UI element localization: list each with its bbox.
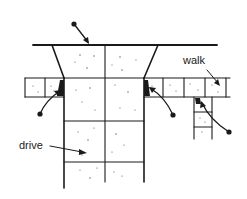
branch-joint-fill	[195, 98, 201, 104]
callout-branch-joint	[200, 101, 232, 135]
drive-label-leader	[50, 146, 87, 155]
right-joint-fill	[144, 80, 150, 96]
drive-label: drive	[19, 139, 43, 151]
callout-right-joint	[149, 87, 176, 118]
walk-label: walk	[182, 54, 206, 66]
callout-top-edge	[71, 21, 89, 44]
callout-left-joint	[37, 90, 61, 117]
apron-right-flare	[144, 45, 158, 78]
apron-left-flare	[52, 45, 64, 78]
concrete-stipple	[32, 54, 218, 178]
driveway-walk-diagram: walk drive	[0, 0, 247, 199]
